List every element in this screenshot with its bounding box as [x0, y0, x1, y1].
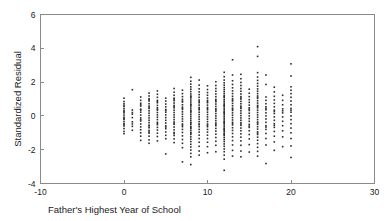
data-point [148, 92, 150, 94]
x-axis-title: Father's Highest Year of School [48, 204, 181, 215]
data-point [182, 104, 184, 106]
data-point [190, 146, 192, 148]
data-point [198, 129, 200, 131]
data-point [223, 72, 225, 74]
data-point [257, 116, 259, 118]
data-point [182, 121, 184, 123]
data-point [148, 130, 150, 132]
data-point [173, 99, 175, 101]
data-point [257, 102, 259, 104]
data-point [215, 93, 217, 95]
data-point [182, 161, 184, 163]
data-point [198, 141, 200, 143]
data-point [123, 114, 125, 116]
data-point [182, 96, 184, 98]
data-point [198, 131, 200, 133]
plot-frame [41, 15, 375, 184]
data-point [257, 143, 259, 145]
data-point [148, 110, 150, 112]
data-point [140, 100, 142, 102]
data-point [198, 150, 200, 152]
data-point [165, 135, 167, 137]
data-point [207, 85, 209, 87]
data-point [157, 136, 159, 138]
data-point [123, 97, 125, 99]
data-point [157, 114, 159, 116]
data-point [190, 93, 192, 95]
data-point [207, 146, 209, 148]
data-point [290, 93, 292, 95]
data-point [165, 97, 167, 99]
data-point [274, 125, 276, 127]
data-point [240, 145, 242, 147]
data-point [232, 103, 234, 105]
data-point [198, 126, 200, 128]
data-point [207, 121, 209, 123]
data-point [290, 119, 292, 121]
data-point [223, 107, 225, 109]
data-point [132, 129, 134, 131]
data-point [248, 144, 250, 146]
data-point [198, 84, 200, 86]
data-point [173, 119, 175, 121]
data-point [190, 164, 192, 166]
y-tick-label: 0 [31, 111, 36, 121]
data-point [232, 99, 234, 101]
data-point [140, 109, 142, 111]
data-point [257, 83, 259, 85]
data-point [223, 79, 225, 81]
data-point [232, 136, 234, 138]
data-point [223, 114, 225, 116]
data-point [132, 121, 134, 123]
tick-marks [41, 48, 292, 183]
data-point [223, 116, 225, 118]
x-tick-label: -10 [34, 187, 47, 197]
data-point [223, 105, 225, 107]
data-point [140, 140, 142, 142]
data-point [190, 119, 192, 121]
data-point [265, 122, 267, 124]
tick-label-layer: -100102030-4-20246 [28, 10, 380, 197]
data-point [198, 116, 200, 118]
y-tick-label: 4 [31, 43, 36, 53]
data-point [140, 119, 142, 121]
data-point [265, 103, 267, 105]
data-point [182, 124, 184, 126]
data-point [257, 122, 259, 124]
data-point [215, 137, 217, 139]
data-point [215, 81, 217, 83]
data-point [207, 131, 209, 133]
data-point [165, 106, 167, 108]
data-point [182, 118, 184, 120]
data-point [182, 111, 184, 113]
data-point [274, 131, 276, 133]
data-point [232, 96, 234, 98]
data-point [223, 109, 225, 111]
data-point [274, 119, 276, 121]
data-point [232, 155, 234, 157]
data-point [257, 151, 259, 153]
data-point [223, 143, 225, 145]
data-point [207, 129, 209, 131]
data-point [140, 96, 142, 98]
data-point [232, 144, 234, 146]
data-point [223, 151, 225, 153]
data-point [265, 112, 267, 114]
scatter-plot-figure: -100102030-4-20246 Father's Highest Year… [0, 0, 392, 221]
data-point [265, 144, 267, 146]
data-point [223, 91, 225, 93]
data-point [140, 102, 142, 104]
data-point [182, 126, 184, 128]
data-point [207, 94, 209, 96]
data-point [190, 117, 192, 119]
data-point [157, 123, 159, 125]
data-point [215, 103, 217, 105]
data-point [190, 143, 192, 145]
data-point [290, 123, 292, 125]
data-point [223, 84, 225, 86]
data-point [257, 46, 259, 48]
data-point [248, 118, 250, 120]
data-point [123, 105, 125, 107]
data-point [148, 122, 150, 124]
data-point [157, 119, 159, 121]
